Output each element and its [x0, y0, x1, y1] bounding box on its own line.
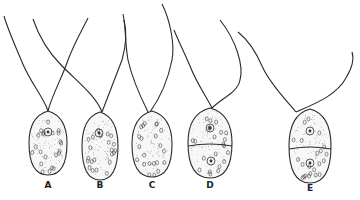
flagellum	[296, 52, 353, 112]
flagellum	[150, 4, 173, 112]
flagellum	[123, 14, 148, 112]
flagellum	[48, 18, 88, 111]
flagellum	[102, 20, 126, 112]
cell-label: D	[206, 180, 213, 190]
cell-d: D	[174, 20, 241, 190]
cell-label: E	[307, 183, 313, 193]
flagellum	[212, 20, 241, 108]
cell-label: C	[149, 180, 156, 190]
cell-illustration: ABCDE	[0, 0, 360, 200]
cell-e: E	[238, 32, 353, 193]
cell-label: B	[97, 180, 104, 190]
flagellum	[4, 16, 48, 111]
cell-a: A	[4, 16, 88, 190]
flagellum	[238, 32, 296, 112]
flagellum	[33, 19, 102, 112]
cell-label: A	[45, 180, 52, 190]
flagellum	[174, 30, 212, 108]
cell-c: C	[123, 4, 173, 190]
figure-canvas: ABCDE	[0, 0, 360, 200]
cell-body	[132, 111, 172, 177]
